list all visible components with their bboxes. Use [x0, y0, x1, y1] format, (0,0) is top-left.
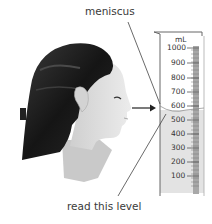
tick-label: 900 [171, 58, 185, 67]
scale-labels: mL 1000 900 800 700 600 500 400 300 200 … [0, 0, 212, 224]
tick-label: 100 [171, 171, 185, 180]
tick-label: 1000 [167, 43, 186, 52]
tick-label: 400 [171, 129, 185, 138]
tick-label: 300 [171, 143, 185, 152]
tick-label: 200 [171, 157, 185, 166]
tick-label: 700 [171, 87, 185, 96]
tick-label: 500 [171, 115, 185, 124]
tick-label: 600 [171, 101, 185, 110]
tick-label: 800 [171, 73, 185, 82]
